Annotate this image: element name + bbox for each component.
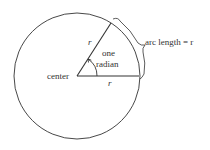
radian-diagram: center r r one radian arc length = r <box>0 0 210 150</box>
angle-label-line1: one <box>102 48 115 58</box>
slanted-radius-label: r <box>88 37 92 47</box>
center-label: center <box>47 71 69 81</box>
horizontal-radius-label: r <box>108 78 112 88</box>
angle-label-line2: radian <box>96 59 119 69</box>
arc-length-label: arc length = r <box>145 37 193 47</box>
